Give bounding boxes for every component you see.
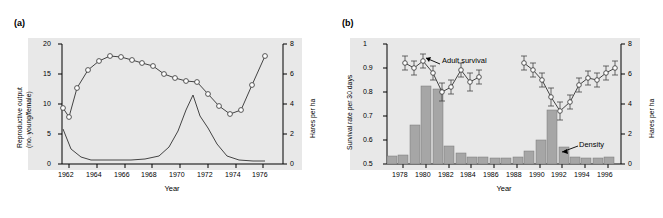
panel-a: (a)	[0, 0, 330, 218]
panel-b-ytick-left-05: 0.5	[363, 160, 373, 167]
panel-b-xtick-1978: 1978	[392, 171, 408, 178]
svg-text:(no. young/female): (no. young/female)	[25, 91, 33, 148]
panel-b: (b)	[330, 0, 663, 218]
panel-b-ytick-left-09: 0.9	[363, 64, 373, 71]
panel-b-ytick-left-07: 0.7	[363, 112, 373, 119]
panel-b-ytick-right-8: 8	[628, 40, 632, 47]
panel-b-xtick-1982: 1982	[438, 171, 454, 178]
panel-b-xtick-1986: 1986	[483, 171, 499, 178]
panel-b-xtick-1980: 1980	[415, 171, 431, 178]
panel-b-xtick-1996: 1996	[597, 171, 613, 178]
panel-b-xtick-1990: 1990	[529, 171, 545, 178]
series-reproductive-output	[63, 56, 265, 117]
panel-a-ytick-left-5: 5	[47, 130, 51, 137]
panel-b-ytick-left-08: 0.8	[363, 88, 373, 95]
panel-b-xtick-1994: 1994	[574, 171, 590, 178]
panel-a-xtick-1976: 1976	[252, 171, 268, 178]
panel-a-xtick-1972: 1972	[197, 171, 213, 178]
panel-a-ytick-left-20: 20	[43, 40, 51, 47]
panel-b-xtick-1992: 1992	[551, 171, 567, 178]
panel-a-ytick-right-0: 0	[290, 160, 294, 167]
panel-a-xtick-1962: 1962	[58, 171, 74, 178]
panel-a-ytick-right-8: 8	[290, 40, 294, 47]
panel-a-ytick-right-6: 6	[290, 70, 294, 77]
panel-b-ytick-right-2: 2	[628, 130, 632, 137]
series-reproductive-output-markers	[61, 54, 268, 120]
panel-b-xtick-1984: 1984	[460, 171, 476, 178]
panel-a-xtick-1966: 1966	[114, 171, 130, 178]
panel-a-ytick-left-15: 15	[43, 70, 51, 77]
panel-a-ytick-left-0: 0	[47, 160, 51, 167]
panel-b-ytick-left-06: 0.6	[363, 136, 373, 143]
annotation-density: Density	[579, 140, 604, 149]
panel-a-xtick-1974: 1974	[225, 171, 241, 178]
panel-b-ytick-right-6: 6	[628, 70, 632, 77]
panel-b-xtick-1988: 1988	[506, 171, 522, 178]
panel-a-ytick-right-4: 4	[290, 100, 294, 107]
panel-a-xaxis-title: Year	[147, 184, 197, 193]
svg-text:Survival rate per 30 days: Survival rate per 30 days	[346, 74, 354, 150]
series-density-bars	[387, 86, 614, 164]
panel-b-ytick-right-0: 0	[628, 160, 632, 167]
panel-b-xaxis-title: Year	[479, 184, 529, 193]
svg-text:Hares per ha: Hares per ha	[309, 98, 317, 138]
svg-text:Hares per ha: Hares per ha	[648, 98, 656, 138]
figure-container: (a)	[0, 0, 663, 218]
panel-a-ytick-right-2: 2	[290, 130, 294, 137]
svg-text:Reproductive output: Reproductive output	[16, 87, 24, 148]
panel-a-xtick-1964: 1964	[86, 171, 102, 178]
annotation-adult-survival-line1: Adult survival	[442, 56, 487, 65]
panel-b-ytick-left-10: 1	[363, 40, 367, 47]
panel-a-ytick-left-10: 10	[43, 100, 51, 107]
series-hare-density-a	[63, 95, 265, 161]
panel-a-xtick-1970: 1970	[169, 171, 185, 178]
panel-b-ytick-right-4: 4	[628, 100, 632, 107]
panel-a-xtick-1968: 1968	[141, 171, 157, 178]
